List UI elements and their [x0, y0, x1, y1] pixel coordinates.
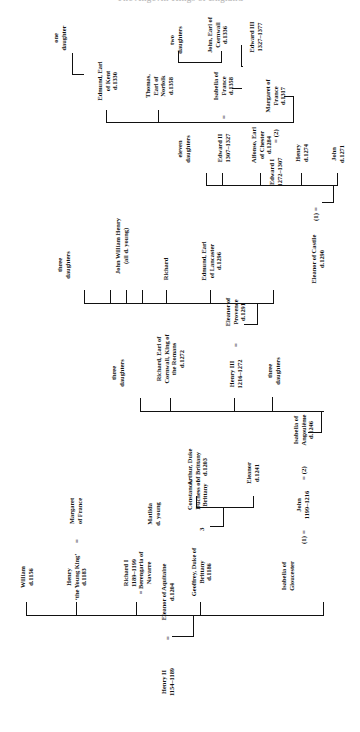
node-line: John	[330, 137, 338, 171]
node-line: Henry III	[228, 351, 236, 397]
page-title: The Angevin Kings of England	[0, 0, 360, 3]
node-line: 1216–1272	[236, 351, 244, 397]
node-line: daughter	[60, 17, 68, 59]
sibling-spine-henry-iii	[84, 303, 274, 304]
connector-stub-henry-1274	[301, 173, 302, 186]
node-john-cornwall: John, Earl of Cornwall d.1336	[206, 7, 229, 63]
node-line: Edward III	[248, 11, 256, 63]
connector-geoffrey-drop	[210, 526, 224, 527]
node-line: daughters	[118, 351, 126, 395]
node-line: three	[56, 243, 64, 287]
node-line: three	[266, 349, 274, 393]
node-line: daughters	[274, 349, 282, 393]
node-line: d.1271	[338, 137, 346, 171]
connector-stub-edward-i	[273, 290, 274, 304]
node-henry-1274: Henry d.1274	[294, 135, 309, 171]
node-line: Edward II	[216, 123, 224, 173]
node-line: Isabella of	[280, 549, 288, 603]
connector-stub-john	[323, 602, 324, 616]
connector-edward-i-2-to-spine	[293, 96, 294, 123]
node-eleanor-castile: Eleanor of Castile d.1290	[310, 225, 325, 293]
node-two-daughters: two daughters	[168, 19, 183, 61]
node-line: eleven	[176, 127, 184, 171]
connector-stub-john-w-h-3	[110, 290, 111, 304]
node-line: d.1296	[215, 233, 223, 289]
node-edmund-kent: Edmund, Earl of Kent d.1330	[96, 53, 119, 109]
node-line: Richard, Earl of	[155, 321, 163, 397]
connector-stub-william	[26, 602, 27, 616]
connector-edward-ii-to-edward-iii	[241, 45, 242, 67]
connector-stub-three-daughters-b	[140, 398, 141, 412]
connector-stub-eleven-daughters	[206, 173, 207, 186]
node-line: Alfonso, Earl	[250, 117, 258, 173]
node-line: Cornwall, King of	[163, 321, 171, 397]
node-line: Matilda	[146, 493, 154, 535]
node-line: d.1204	[168, 553, 176, 631]
connector-edmund-kent-drop	[72, 74, 84, 75]
sibling-spine-john	[140, 411, 324, 412]
node-line: Arthur, Duke	[186, 439, 194, 495]
node-john-1271: John d.1271	[330, 137, 345, 171]
sibling-spine-edward-i-2	[106, 122, 294, 123]
node-line: Eleanor of	[224, 287, 232, 337]
node-line: the Romans	[170, 321, 178, 397]
connector-root-to-spine	[193, 615, 194, 637]
node-line: Henry	[294, 135, 302, 171]
node-line: Earl of	[152, 65, 160, 107]
node-margaret-of-france: Margaret of France	[68, 487, 83, 535]
tree-viewport: Henry II 1154–1189 = Eleanor of Aquitain…	[0, 16, 360, 730]
node-matilda: Matilda d. young	[146, 493, 161, 535]
node-line: Thomas,	[144, 65, 152, 107]
marriage-symbol-geoffrey: 3	[198, 528, 206, 532]
node-richard-i: Richard I 1189–1199 = Berengaria of Nava…	[122, 541, 152, 605]
node-john-king: John 1199–1216	[295, 483, 310, 527]
node-line: d.1241	[253, 453, 261, 493]
node-line: d.1290	[318, 225, 326, 293]
marriage-symbol-henry-young: =	[73, 539, 81, 543]
node-line: Norfolk	[159, 65, 167, 107]
marriage-symbol-henry-iii: =	[232, 343, 240, 347]
node-one-daughter: one daughter	[52, 17, 67, 59]
node-henry-young-king: Henry ‘the Young King’ d.1183	[65, 549, 88, 605]
node-line: Eleanor of Aquitaine	[160, 553, 168, 631]
node-line: Margaret	[68, 487, 76, 535]
node-line: France	[272, 71, 280, 121]
node-eleven-daughters: eleven daughters	[176, 127, 191, 171]
node-william: William d.1156	[19, 555, 34, 599]
node-edmund-lancaster: Edmund, Earl of Lancaster d.1296	[200, 233, 223, 289]
node-line: Margaret of	[264, 71, 272, 121]
node-line: ‘the Young King’	[73, 549, 81, 605]
node-geoffrey-brittany: Geoffrey, Duke of Brittany d.1186	[190, 537, 213, 607]
connector-john-drop	[308, 432, 322, 433]
connector-stub-edmund-lancaster	[210, 290, 211, 304]
node-line: of France	[76, 487, 84, 535]
node-eleanor-aquitaine: Eleanor of Aquitaine d.1204	[160, 553, 175, 631]
node-line: Richard	[162, 251, 170, 287]
node-richard-cornwall: Richard, Earl of Cornwall, King of the R…	[155, 321, 185, 397]
node-line: d.1183	[80, 549, 88, 605]
connector-edward-ii-drop	[232, 88, 242, 89]
tree-stage: Henry II 1154–1189 = Eleanor of Aquitain…	[10, 23, 350, 723]
node-line: Edmund, Earl	[96, 53, 104, 109]
node-line: 1154–1189	[168, 649, 176, 715]
node-eleanor-1241: Eleanor d.1241	[245, 453, 260, 493]
node-line: 1199–1216	[303, 483, 311, 527]
connector-edmund-kent-to-daughter	[72, 53, 73, 75]
node-line: d.1284	[265, 117, 273, 173]
node-line: John William Henry	[114, 203, 122, 289]
node-line: Geoffrey, Duke of	[190, 537, 198, 607]
node-line: d. young	[154, 493, 162, 535]
connector-john-to-spine	[321, 411, 322, 433]
sibling-spine-gen2	[26, 615, 324, 616]
connector-stub-richard-son	[166, 290, 167, 304]
node-line: daughters	[64, 243, 72, 287]
node-line: Henry II	[160, 649, 168, 715]
node-line: = Berengaria of	[137, 541, 145, 605]
node-line: (all d. young)	[122, 203, 130, 289]
marriage-symbol-root: =	[164, 636, 172, 640]
connector-stub-alfonso	[260, 173, 261, 186]
marriage-symbol-edward-i-2: = (2)	[272, 129, 280, 143]
node-line: John	[295, 483, 303, 527]
node-henry-iii: Henry III 1216–1272	[228, 351, 243, 397]
node-line: Isabella of	[212, 63, 220, 109]
